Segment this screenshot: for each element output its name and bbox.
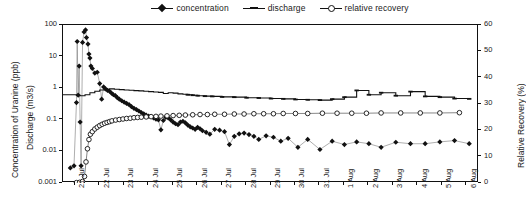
dash-marker-icon	[243, 4, 265, 13]
x-tick-label: 24 Jul	[151, 168, 160, 188]
x-tick-mark	[416, 182, 417, 185]
y2-tick-mark	[478, 182, 481, 183]
x-tick-mark	[367, 182, 368, 185]
x-tick-mark	[172, 182, 173, 185]
plot-area	[62, 24, 478, 182]
x-tick-mark	[123, 182, 124, 185]
y-tick-mark	[59, 118, 62, 119]
x-tick-label: 31 Jul	[322, 168, 331, 188]
y-axis-title-discharge: Discharge (m3/s)	[25, 85, 35, 150]
x-tick-label: 25 Jul	[175, 168, 184, 188]
x-tick-label: 26 Jul	[200, 168, 209, 188]
y-tick-label: 10	[49, 51, 57, 60]
legend-item-relative-recovery: relative recovery	[320, 3, 409, 13]
y-tick-label: 0.001	[38, 177, 57, 186]
x-tick-mark	[441, 182, 442, 185]
x-tick-mark	[245, 182, 246, 185]
x-tick-label: 30 Jul	[297, 168, 306, 188]
x-tick-label: 6 Aug	[469, 169, 478, 188]
y2-tick-label: 0	[484, 177, 488, 186]
y2-tick-label: 50	[484, 45, 492, 54]
y2-tick-label: 40	[484, 72, 492, 81]
open-circle-marker-icon	[320, 4, 342, 13]
x-tick-mark	[221, 182, 222, 185]
y-tick-mark	[59, 150, 62, 151]
x-tick-mark	[294, 182, 295, 185]
x-tick-label: 22 Jul	[102, 168, 111, 188]
y-tick-label: 1	[53, 82, 57, 91]
y2-tick-mark	[478, 24, 481, 25]
y-tick-label: 0.1	[47, 114, 57, 123]
y2-tick-label: 10	[484, 151, 492, 160]
x-tick-label: 27 Jul	[224, 168, 233, 188]
x-tick-label: 21 Jul	[77, 168, 86, 188]
legend-label-concentration: concentration	[176, 3, 228, 13]
x-tick-label: 3 Aug	[395, 169, 404, 188]
legend-item-discharge: discharge	[243, 3, 306, 13]
x-tick-label: 23 Jul	[126, 168, 135, 188]
y-tick-mark	[59, 24, 62, 25]
legend-label-discharge: discharge	[268, 3, 306, 13]
x-tick-label: 2 Aug	[371, 169, 380, 188]
y-tick-label: 100	[44, 19, 57, 28]
x-tick-mark	[196, 182, 197, 185]
y-tick-mark	[59, 55, 62, 56]
x-tick-mark	[465, 182, 466, 185]
x-tick-mark	[147, 182, 148, 185]
y2-tick-label: 60	[484, 19, 492, 28]
x-tick-mark	[392, 182, 393, 185]
filled-diamond-marker-icon	[151, 4, 173, 13]
y2-tick-label: 20	[484, 124, 492, 133]
x-tick-mark	[318, 182, 319, 185]
plot-canvas	[63, 25, 479, 183]
chart-legend: concentration discharge relative recover…	[150, 1, 410, 15]
legend-label-relative-recovery: relative recovery	[345, 3, 409, 13]
x-tick-mark	[74, 182, 75, 185]
y2-tick-label: 30	[484, 98, 492, 107]
y2-tick-mark	[478, 76, 481, 77]
y-tick-mark	[59, 87, 62, 88]
x-tick-mark	[343, 182, 344, 185]
y2-tick-mark	[478, 103, 481, 104]
x-tick-label: 4 Aug	[420, 169, 429, 188]
y-axis-title-concentration: Concentration of Uranine (ppb)	[10, 61, 20, 178]
x-tick-label: 28 Jul	[249, 168, 258, 188]
y-tick-label: 0.01	[42, 145, 57, 154]
x-tick-label: 5 Aug	[444, 169, 453, 188]
y-tick-mark	[59, 182, 62, 183]
x-tick-mark	[270, 182, 271, 185]
x-tick-label: 29 Jul	[273, 168, 282, 188]
y2-tick-mark	[478, 155, 481, 156]
legend-item-concentration: concentration	[151, 3, 228, 13]
y2-tick-mark	[478, 129, 481, 130]
y2-tick-mark	[478, 50, 481, 51]
y2-axis-title-relative-recovery: Relative Recovery (%)	[516, 83, 526, 168]
x-tick-mark	[98, 182, 99, 185]
x-tick-label: 1 Aug	[346, 169, 355, 188]
